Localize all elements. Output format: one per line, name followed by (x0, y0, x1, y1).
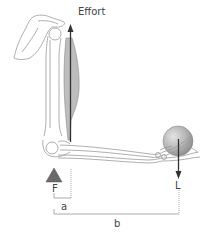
scapula-illustration (14, 15, 65, 59)
fulcrum-label: F (52, 184, 58, 194)
dimension-lines (54, 169, 179, 214)
load-arm-label: b (114, 219, 120, 229)
effort-arm-label: a (61, 202, 67, 212)
fulcrum-triangle (46, 168, 62, 182)
forearm-illustration (58, 145, 163, 163)
forearm-lever-diagram: Effort F L a b (0, 0, 214, 239)
load-label: L (175, 181, 181, 191)
effort-label: Effort (78, 7, 105, 17)
biceps-muscle (64, 38, 79, 140)
elbow-joint-illustration (43, 140, 70, 157)
diagram-canvas (0, 0, 214, 239)
humerus-illustration (44, 28, 62, 136)
